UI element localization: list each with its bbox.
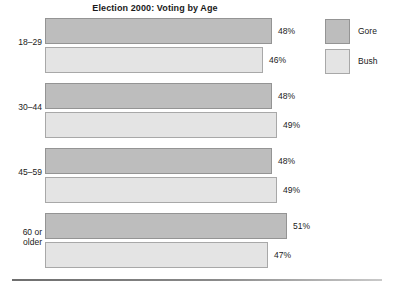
- bar-bush[interactable]: [45, 47, 263, 73]
- bar-value-gore: 48%: [278, 83, 295, 109]
- bar-group: 30–44 48% 49%: [0, 83, 320, 141]
- bar-group: 18–29 48% 46%: [0, 18, 320, 76]
- group-label: 45–59: [0, 167, 42, 177]
- group-label-line1: 18–29: [18, 37, 42, 47]
- bar-group: 60 or older 51% 47%: [0, 213, 320, 271]
- election-voting-by-age-chart: Election 2000: Voting by Age 18–29 48% 4…: [0, 0, 394, 290]
- group-label-line1: 45–59: [18, 167, 42, 177]
- legend-swatch-gore: [325, 19, 350, 44]
- bar-value-bush: 46%: [269, 47, 286, 73]
- bar-value-bush: 49%: [283, 177, 300, 203]
- bottom-divider: [12, 279, 382, 281]
- chart-title: Election 2000: Voting by Age: [0, 3, 310, 13]
- bar-value-gore: 51%: [293, 213, 310, 239]
- bar-gore[interactable]: [45, 18, 272, 44]
- legend-item-gore[interactable]: Gore: [325, 19, 394, 49]
- group-label-line1: 60 or: [0, 227, 42, 237]
- bar-bush[interactable]: [45, 242, 268, 268]
- group-label: 60 or older: [0, 227, 42, 247]
- legend-item-bush[interactable]: Bush: [325, 49, 394, 79]
- group-label: 18–29: [0, 37, 42, 47]
- bar-group: 45–59 48% 49%: [0, 148, 320, 206]
- bar-value-bush: 47%: [274, 242, 291, 268]
- plot-area: 18–29 48% 46% 30–44 48% 49%: [0, 18, 320, 266]
- group-label: 30–44: [0, 102, 42, 112]
- bar-gore[interactable]: [45, 83, 272, 109]
- bar-value-bush: 49%: [283, 112, 300, 138]
- bar-bush[interactable]: [45, 112, 277, 138]
- bar-bush[interactable]: [45, 177, 277, 203]
- group-label-line2: older: [0, 237, 42, 247]
- bar-gore[interactable]: [45, 213, 287, 239]
- bar-value-gore: 48%: [278, 18, 295, 44]
- legend-swatch-bush: [325, 49, 350, 74]
- group-label-line1: 30–44: [18, 102, 42, 112]
- chart-legend: Gore Bush: [325, 19, 394, 79]
- bar-value-gore: 48%: [278, 148, 295, 174]
- legend-label-gore: Gore: [358, 19, 377, 44]
- legend-label-bush: Bush: [358, 49, 377, 74]
- bar-gore[interactable]: [45, 148, 272, 174]
